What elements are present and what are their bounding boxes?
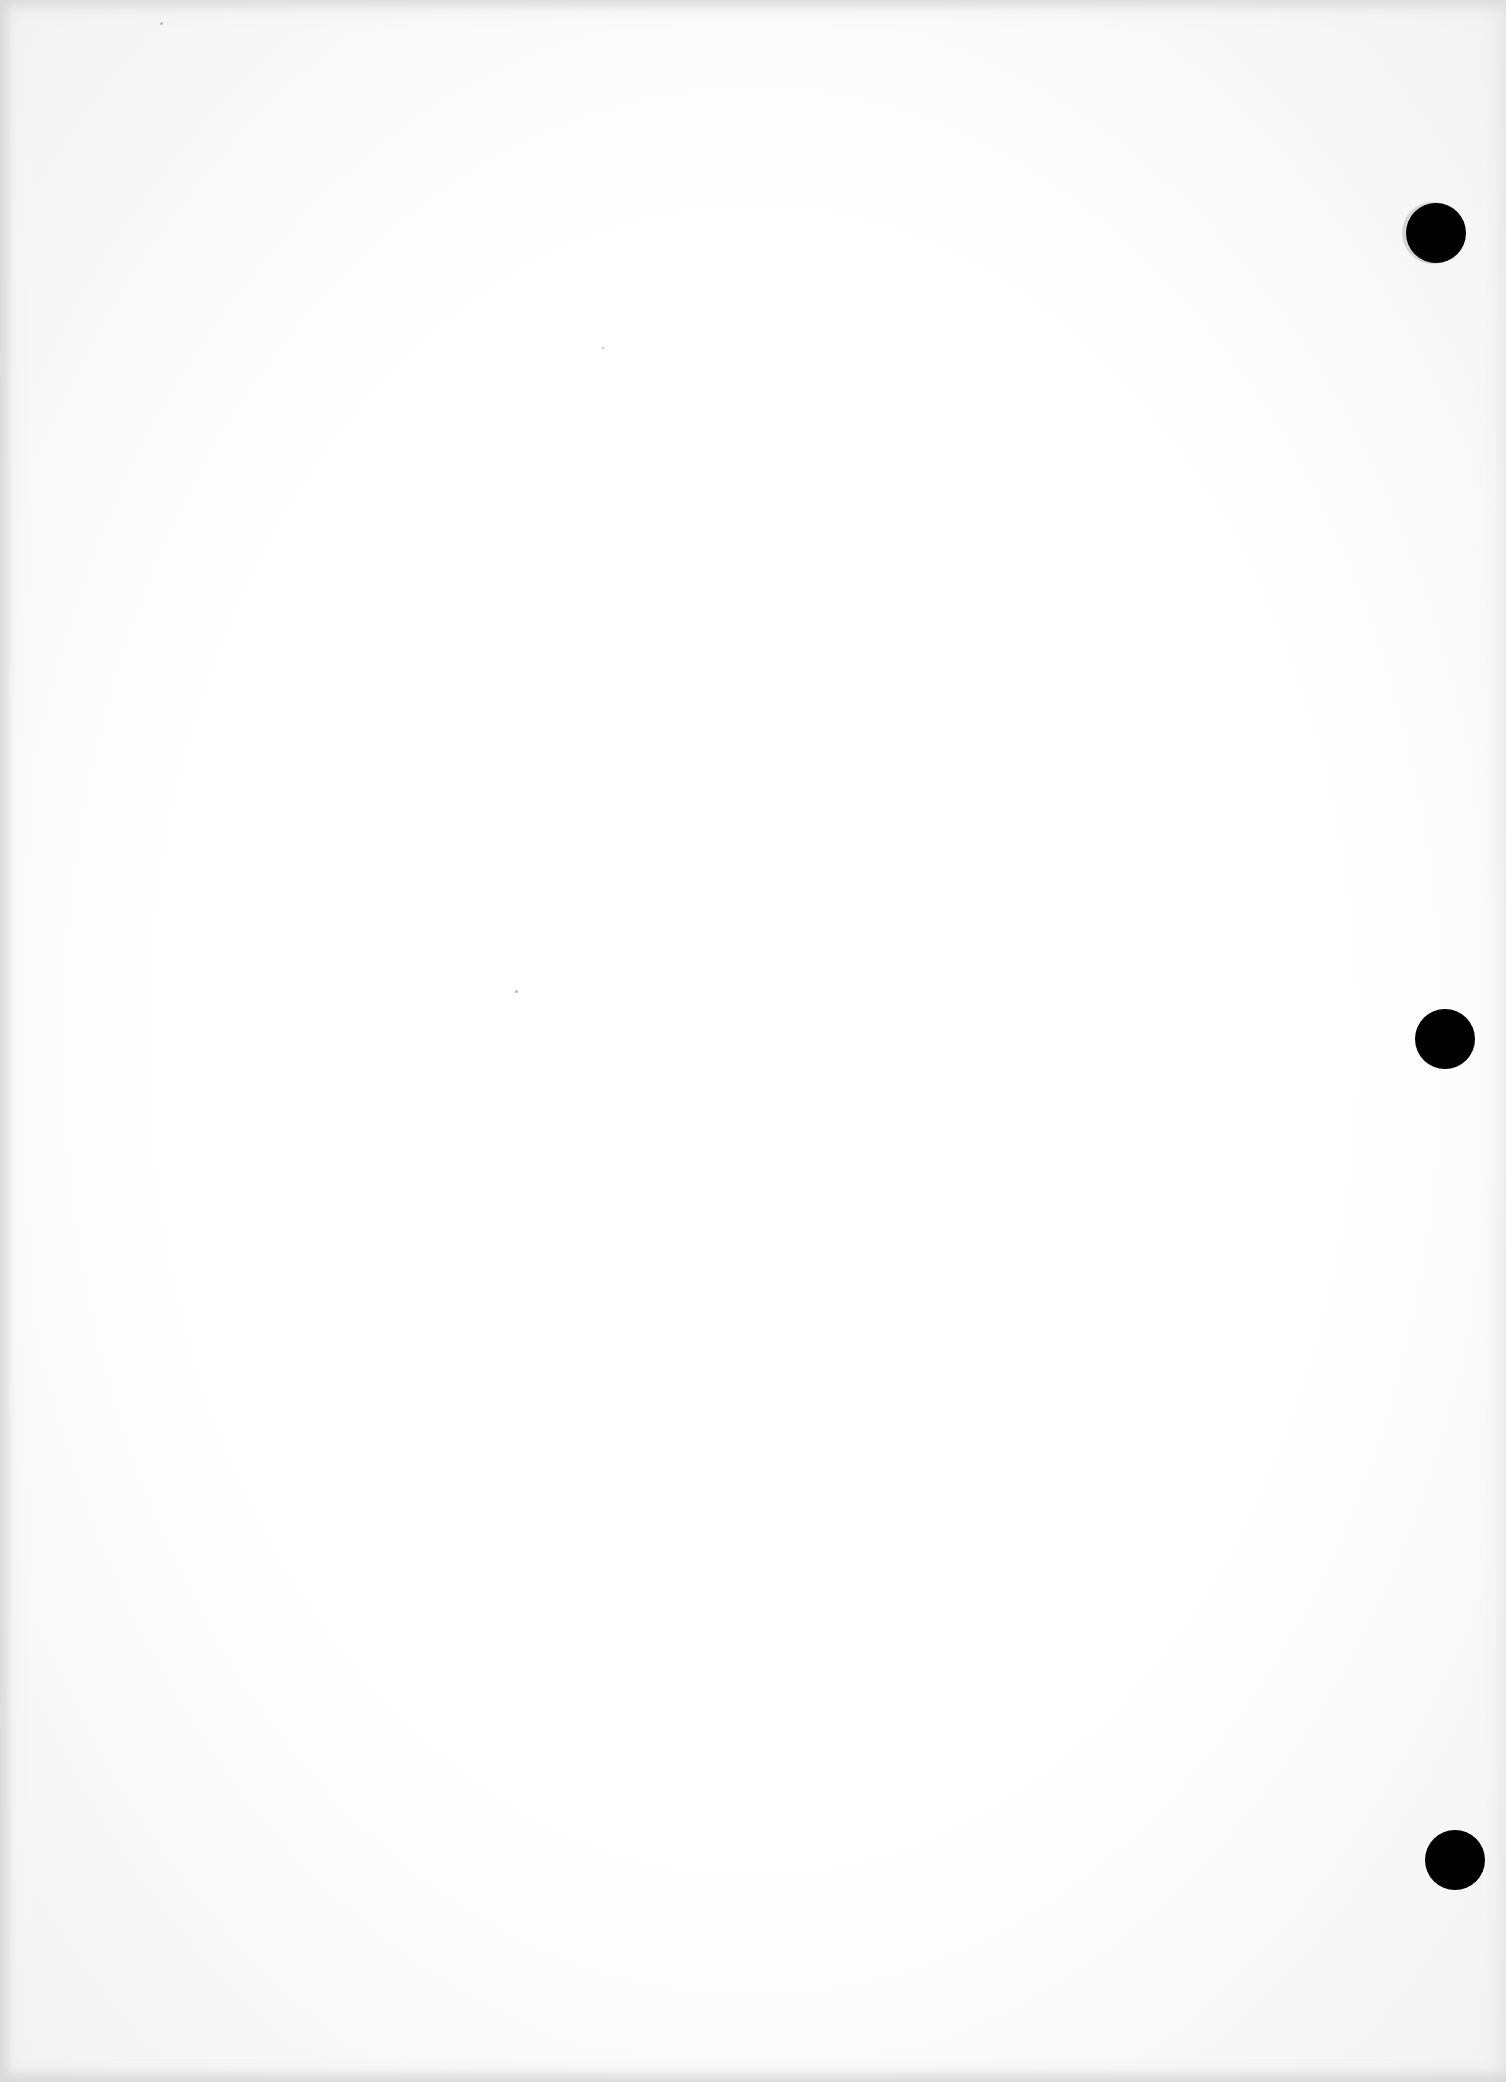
page-edge-left: [0, 0, 14, 2082]
page-edge-bottom: [0, 2068, 1506, 2082]
punch-hole-top: [1406, 203, 1466, 263]
scanned-page: [0, 0, 1506, 2082]
paper-speck: [602, 347, 604, 349]
paper-speck: [515, 990, 518, 993]
punch-hole-bottom: [1425, 1830, 1485, 1890]
paper-speck: [160, 22, 163, 25]
punch-hole-middle: [1415, 1009, 1475, 1069]
page-edge-top: [0, 0, 1506, 12]
